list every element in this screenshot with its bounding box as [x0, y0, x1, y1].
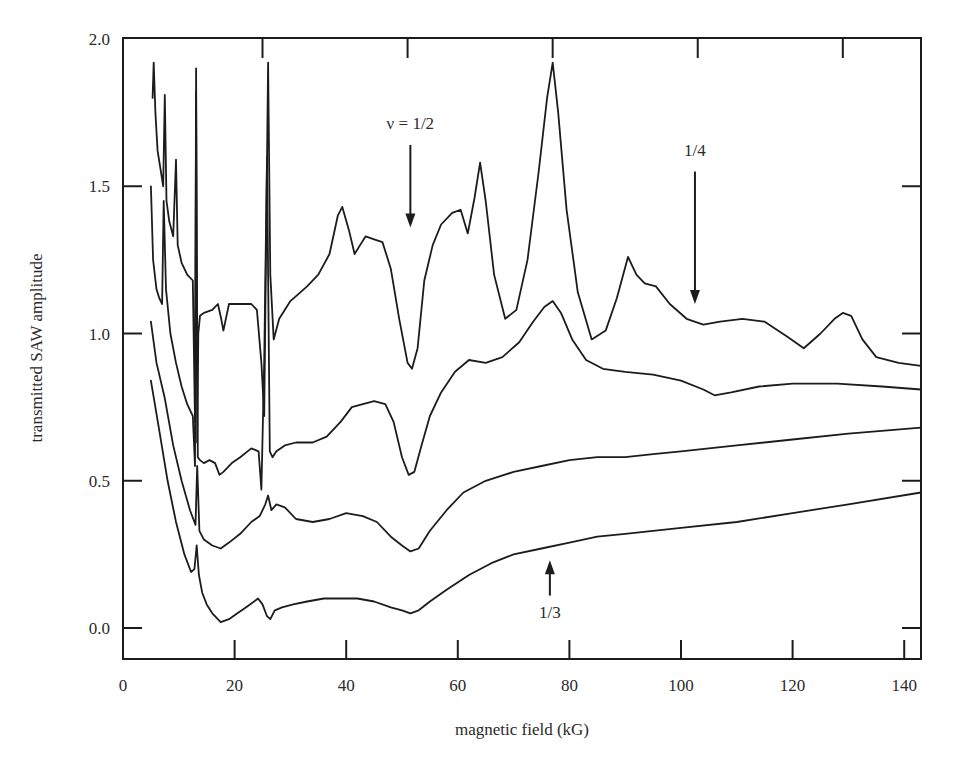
y-tick-label: 1.0: [89, 325, 110, 344]
x-tick-label: 20: [226, 676, 243, 695]
y-tick-label: 0.5: [89, 472, 110, 491]
x-tick-label: 80: [561, 676, 578, 695]
arrow-down-icon: [405, 213, 415, 227]
y-tick-label: 1.5: [89, 177, 110, 196]
annotations: ν = 1/21/41/3: [387, 114, 707, 622]
y-tick-label: 2.0: [89, 30, 110, 49]
arrow-up-icon: [545, 560, 555, 574]
annotation-label: ν = 1/2: [387, 114, 435, 133]
annotation-quarter: 1/4: [684, 141, 706, 305]
plot-frame: [123, 38, 921, 659]
annotation-label: 1/4: [684, 141, 706, 160]
x-tick-label: 40: [338, 676, 355, 695]
x-tick-label: 120: [780, 676, 806, 695]
annotation-label: 1/3: [539, 603, 561, 622]
chart: 020406080100120140 0.00.51.01.52.0 ν = 1…: [0, 0, 953, 764]
x-tick-label: 100: [668, 676, 694, 695]
top-axis-ticks: [263, 38, 843, 58]
y-tick-label: 0.0: [89, 619, 110, 638]
data-curves: [151, 63, 921, 623]
x-tick-label: 60: [449, 676, 466, 695]
x-axis-label: magnetic field (kG): [455, 720, 589, 739]
x-axis-ticks: 020406080100120140: [119, 640, 917, 695]
x-tick-label: 0: [119, 676, 128, 695]
annotation-third: 1/3: [539, 560, 561, 621]
arrow-down-icon: [690, 290, 700, 304]
annotation-nu-half: ν = 1/2: [387, 114, 435, 227]
y-axis-label: transmitted SAW amplitude: [27, 253, 46, 442]
x-tick-label: 140: [891, 676, 917, 695]
curve-3: [151, 322, 921, 552]
